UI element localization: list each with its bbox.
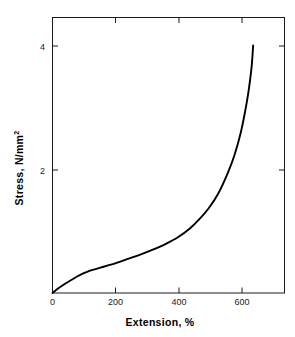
x-tick-label-200: 200 bbox=[108, 297, 123, 307]
y-axis-title-group: Stress, N/mm2 bbox=[13, 131, 25, 206]
x-tick-label-600: 600 bbox=[234, 297, 249, 307]
x-tick-label-400: 400 bbox=[171, 297, 186, 307]
chart-figure: 4 2 0 200 400 600 Stress, N/mm2 Extensio… bbox=[0, 0, 295, 337]
y-tick-label-4: 4 bbox=[40, 42, 45, 52]
y-tick-label-2: 2 bbox=[40, 166, 45, 176]
x-tick-label-0: 0 bbox=[50, 297, 55, 307]
x-axis-title: Extension, % bbox=[126, 316, 195, 328]
y-axis-title: Stress, N/mm2 bbox=[13, 131, 25, 206]
stress-extension-chart: 4 2 0 200 400 600 Stress, N/mm2 Extensio… bbox=[0, 0, 295, 337]
